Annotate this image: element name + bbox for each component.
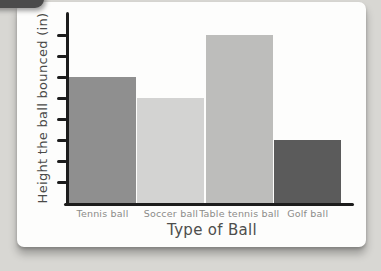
category-label-golf-ball: Golf ball	[287, 208, 328, 219]
y-axis-tick-8	[57, 34, 67, 37]
x-axis	[64, 203, 354, 206]
y-axis-tick-5	[57, 97, 67, 100]
y-axis-title: Height the ball bounced (in)	[35, 13, 50, 204]
worksheet-photo: Height the ball bounced (in) Type of Bal…	[0, 0, 381, 271]
bar-golf-ball	[274, 140, 341, 203]
chart-card: Height the ball bounced (in) Type of Bal…	[17, 2, 366, 247]
y-axis-tick-7	[57, 55, 67, 58]
y-axis-tick-3	[57, 139, 67, 142]
y-axis-tick-4	[57, 118, 67, 121]
category-label-tennis-ball: Tennis ball	[76, 208, 128, 219]
bar-tennis-ball	[69, 77, 136, 203]
bar-soccer-ball	[137, 98, 204, 203]
y-axis-tick-2	[57, 160, 67, 163]
bar-table-tennis-ball	[206, 35, 273, 203]
category-label-table-tennis-ball: Table tennis ball	[199, 208, 279, 219]
category-label-soccer-ball: Soccer ball	[144, 208, 198, 219]
x-axis-title: Type of Ball	[167, 221, 257, 239]
y-axis-tick-1	[57, 181, 67, 184]
page-corner-decoration	[0, 0, 44, 8]
y-axis-tick-6	[57, 76, 67, 79]
